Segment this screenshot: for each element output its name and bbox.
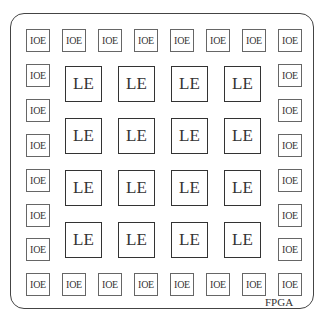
fpga-chip-outline <box>10 13 314 309</box>
ioe-block: IOE <box>242 29 266 52</box>
le-block: LE <box>65 66 102 102</box>
le-block: LE <box>65 118 102 154</box>
le-block: LE <box>224 170 261 206</box>
ioe-block: IOE <box>26 99 50 122</box>
ioe-block: IOE <box>98 273 122 296</box>
le-block: LE <box>118 118 155 154</box>
ioe-block: IOE <box>278 64 302 87</box>
le-block: LE <box>118 66 155 102</box>
ioe-block: IOE <box>134 273 158 296</box>
ioe-block: IOE <box>278 134 302 157</box>
ioe-block: IOE <box>98 29 122 52</box>
ioe-block: IOE <box>278 238 302 261</box>
fpga-label: FPGA <box>265 296 293 308</box>
ioe-block: IOE <box>26 204 50 227</box>
ioe-block: IOE <box>170 273 194 296</box>
le-block: LE <box>224 66 261 102</box>
ioe-block: IOE <box>26 64 50 87</box>
ioe-block: IOE <box>278 204 302 227</box>
ioe-block: IOE <box>278 169 302 192</box>
ioe-block: IOE <box>242 273 266 296</box>
le-block: LE <box>118 170 155 206</box>
le-block: LE <box>118 222 155 258</box>
ioe-block: IOE <box>278 273 302 296</box>
ioe-block: IOE <box>278 99 302 122</box>
ioe-block: IOE <box>26 134 50 157</box>
le-block: LE <box>224 222 261 258</box>
ioe-block: IOE <box>206 29 230 52</box>
ioe-block: IOE <box>26 169 50 192</box>
le-block: LE <box>171 118 208 154</box>
ioe-block: IOE <box>62 29 86 52</box>
le-block: LE <box>171 222 208 258</box>
ioe-block: IOE <box>278 29 302 52</box>
le-block: LE <box>171 66 208 102</box>
ioe-block: IOE <box>26 29 50 52</box>
ioe-block: IOE <box>62 273 86 296</box>
ioe-block: IOE <box>206 273 230 296</box>
ioe-block: IOE <box>26 273 50 296</box>
le-block: LE <box>224 118 261 154</box>
ioe-block: IOE <box>134 29 158 52</box>
le-block: LE <box>65 170 102 206</box>
ioe-block: IOE <box>26 238 50 261</box>
le-block: LE <box>171 170 208 206</box>
le-block: LE <box>65 222 102 258</box>
ioe-block: IOE <box>170 29 194 52</box>
